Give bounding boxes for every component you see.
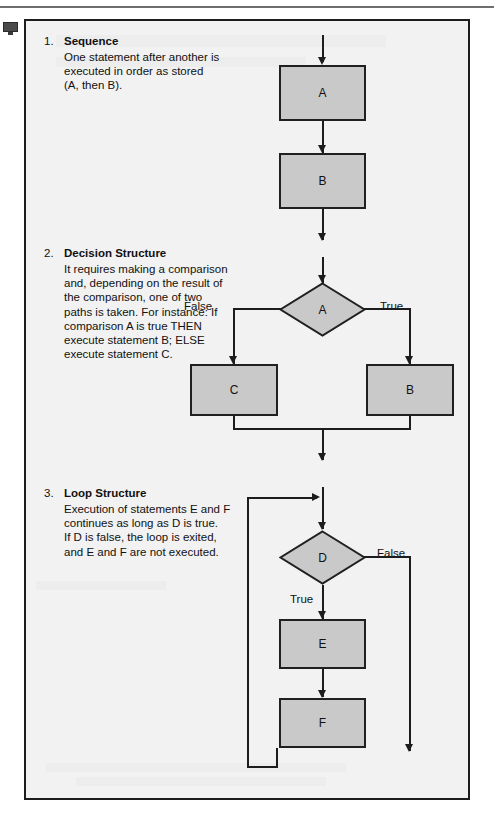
header-divider [0,6,494,8]
section-title: Sequence [64,35,118,47]
edge-decision-true-h [364,308,411,310]
edge-label-true-loop: True [290,593,313,605]
edge-label-true: True [380,300,403,312]
arrowhead-loop-exit [405,744,413,752]
section-number: 3. [44,487,54,499]
arrowhead-loopback-into-d [312,493,320,501]
section-title: Loop Structure [64,487,146,499]
node-f: F [279,698,366,748]
node-b2: B [366,364,454,416]
monitor-icon [3,22,18,35]
node-b: B [279,153,366,209]
section-body: One statement after another is executed … [64,50,279,93]
monitor-screen [3,22,18,32]
arrowhead-exit-decision [318,453,326,461]
figure-panel: 1. Sequence One statement after another … [24,19,470,800]
arrowhead-into-b2 [405,356,413,364]
edge-loop-false-v [409,556,411,751]
arrowhead-into-b [318,145,326,153]
edge-loop-false-h [364,556,411,558]
edge-loopback-left-v [247,497,249,766]
clipped-header-text [4,0,304,4]
node-e: E [279,619,366,669]
section-body: It requires making a comparison and, dep… [64,262,286,361]
arrowhead-into-e [318,611,326,619]
arrowhead-into-f [318,690,326,698]
edge-label-false: False [184,300,212,312]
edge-loopback-down [276,748,278,768]
arrowhead-into-a [318,57,326,65]
section-number: 1. [44,35,54,47]
node-decision-a-label: A [279,282,366,337]
scan-artifact [76,777,326,786]
edge-decision-false-h [233,308,281,310]
arrowhead-into-c [229,356,237,364]
arrowhead-exit-sequence [318,233,326,241]
edge-loopback-bottom-h [247,766,278,768]
arrowhead-into-d [318,522,326,530]
node-decision-d: D [279,530,366,585]
node-a: A [279,65,366,121]
scan-artifact [36,581,166,590]
node-decision-d-label: D [279,530,366,585]
section-number: 2. [44,247,54,259]
section-title: Decision Structure [64,247,166,259]
node-c: C [190,364,278,416]
section-body: Execution of statements E and F continue… [64,502,289,559]
edge-loopback-top-h [247,497,317,499]
monitor-stand [8,32,13,35]
scan-artifact [46,763,346,772]
node-decision-a: A [279,282,366,337]
